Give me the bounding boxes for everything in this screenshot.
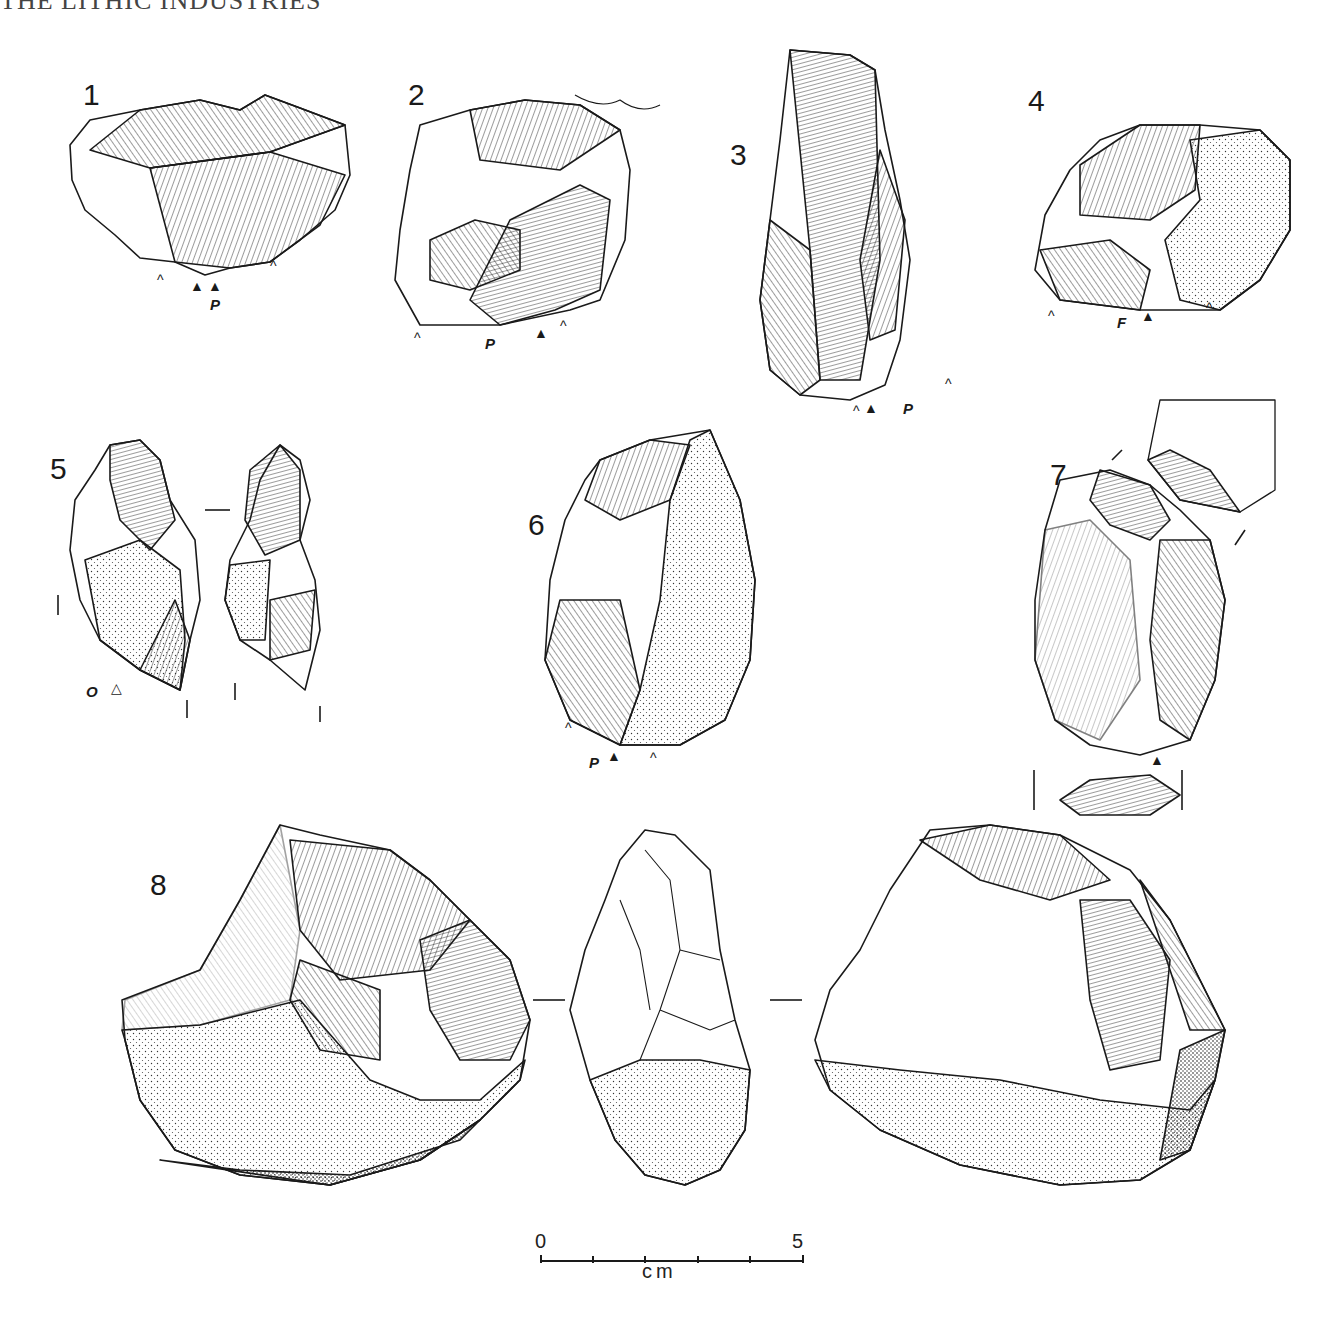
artifact-4 xyxy=(1035,125,1290,310)
chevron-marker: ^ xyxy=(853,403,860,419)
solid-triangle-marker: ▲ xyxy=(607,748,621,764)
platform-label-p: P xyxy=(903,400,913,417)
chevron-marker: ^ xyxy=(560,318,567,334)
chevron-marker: ^ xyxy=(945,376,952,392)
solid-triangle-marker: ▲ xyxy=(190,278,204,294)
artifact-5 xyxy=(58,440,320,722)
figure-number-4: 4 xyxy=(1028,84,1045,118)
chevron-marker: ^ xyxy=(565,720,572,736)
platform-label-p: P xyxy=(485,335,495,352)
chevron-marker: ^ xyxy=(270,258,277,274)
solid-triangle-marker: ▲ xyxy=(208,278,222,294)
figure-number-1: 1 xyxy=(83,78,100,112)
artifact-3 xyxy=(760,50,910,400)
scale-end-label: 5 xyxy=(792,1230,803,1253)
figure-number-5: 5 xyxy=(50,452,67,486)
scale-bar: 0 5 cm xyxy=(540,1230,802,1280)
scale-unit-label: cm xyxy=(642,1260,677,1283)
artifact-8-view-c xyxy=(815,825,1225,1185)
label-o: O xyxy=(86,683,98,700)
solid-triangle-marker: ▲ xyxy=(1141,308,1155,324)
lithic-artifacts-plate xyxy=(0,0,1339,1336)
chevron-marker: ^ xyxy=(1206,300,1213,316)
figure-number-8: 8 xyxy=(150,868,167,902)
artifact-8-view-a xyxy=(122,825,530,1185)
solid-triangle-marker: ▲ xyxy=(1150,752,1164,768)
chevron-marker: ^ xyxy=(414,330,421,346)
figure-number-3: 3 xyxy=(730,138,747,172)
chevron-marker: ^ xyxy=(650,750,657,766)
solid-triangle-marker: ▲ xyxy=(864,400,878,416)
feature-label-f: F xyxy=(1117,314,1126,331)
figure-number-2: 2 xyxy=(408,78,425,112)
platform-label-p: P xyxy=(210,296,220,313)
solid-triangle-marker: ▲ xyxy=(534,325,548,341)
artifact-6 xyxy=(545,430,755,745)
open-triangle-marker: △ xyxy=(111,680,122,696)
artifact-2 xyxy=(395,95,660,325)
chevron-marker: ^ xyxy=(1048,308,1055,324)
figure-number-7: 7 xyxy=(1050,458,1067,492)
chevron-marker: ^ xyxy=(157,272,164,288)
artifact-1 xyxy=(70,95,350,275)
platform-label-p: P xyxy=(589,754,599,771)
artifact-8-view-b xyxy=(533,830,802,1185)
scale-start-label: 0 xyxy=(535,1230,546,1253)
figure-number-6: 6 xyxy=(528,508,545,542)
